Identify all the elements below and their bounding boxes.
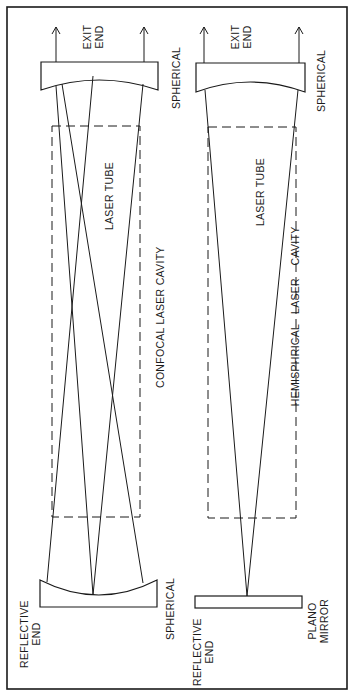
laser-tube-outline	[52, 126, 140, 517]
plano-mirror	[195, 596, 302, 608]
reflective-end-label: REFLECTIVE END	[18, 598, 44, 670]
mirror-line: MIRROR	[318, 598, 330, 644]
bottom-spherical-label: SPHERICAL	[164, 574, 176, 644]
exit-end-line1: EXIT	[229, 19, 241, 55]
plano-line: PLANO	[306, 598, 318, 644]
top-spherical-label: SPHERICAL	[170, 43, 182, 113]
reflective-spherical-mirror	[40, 580, 157, 607]
exit-spherical-mirror	[41, 62, 158, 90]
laser-tube-outline	[208, 127, 296, 518]
hemispherical-title-part2: LASER	[289, 275, 301, 317]
confocal-cavity	[40, 27, 158, 607]
beam-ray	[205, 90, 247, 596]
reflective-end-line1: REFLECTIVE	[18, 598, 30, 670]
exit-end-label: EXIT END	[81, 19, 107, 55]
laser-tube-label: LASER TUBE	[103, 161, 115, 231]
reflective-end-line1: REFLECTIVE	[191, 616, 203, 688]
hemispherical-title-part1: HEMISPHRICAL	[289, 322, 301, 408]
exit-end-label: EXIT END	[229, 19, 255, 55]
top-spherical-label: SPHERICAL	[315, 46, 327, 116]
laser-tube-label: LASER TUBE	[254, 157, 266, 227]
reflective-end-line2: END	[30, 598, 42, 670]
reflective-end-label: REFLECTIVE END	[191, 616, 217, 688]
exit-end-line2: END	[93, 19, 105, 55]
confocal-cavity-title: CONFOCAL LASER CAVITY	[154, 248, 166, 388]
exit-spherical-mirror	[196, 63, 305, 92]
hemispherical-cavity	[195, 27, 305, 608]
exit-end-line2: END	[241, 19, 253, 55]
hemispherical-title-part3: CAVITY	[289, 225, 301, 267]
exit-end-line1: EXIT	[81, 19, 93, 55]
reflective-end-line2: END	[203, 616, 215, 688]
beam-ray	[93, 84, 143, 595]
plano-mirror-label: PLANO MIRROR	[306, 598, 332, 644]
